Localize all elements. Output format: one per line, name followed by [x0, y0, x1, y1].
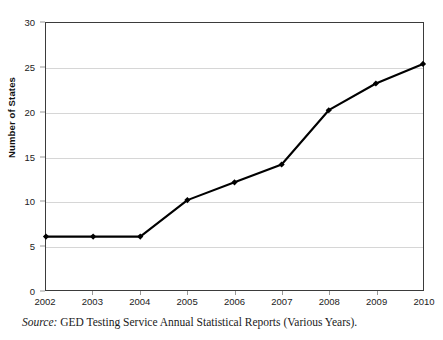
- source-text: GED Testing Service Annual Statistical R…: [57, 316, 357, 328]
- data-series: [46, 23, 423, 290]
- x-tick-label: 2005: [177, 296, 198, 307]
- y-axis: 051015202530: [0, 22, 45, 291]
- x-axis: 200220032004200520062007200820092010: [45, 291, 424, 313]
- chart-title: [18, 0, 438, 4]
- x-tick-mark: [235, 291, 236, 295]
- y-tick-label: 0: [30, 286, 35, 297]
- x-tick-mark: [329, 291, 330, 295]
- y-tick-label: 20: [24, 106, 35, 117]
- x-tick-mark: [187, 291, 188, 295]
- x-tick-mark: [140, 291, 141, 295]
- x-tick-label: 2007: [271, 296, 292, 307]
- data-point-marker: [420, 61, 426, 67]
- x-tick-label: 2003: [82, 296, 103, 307]
- plot-area: [45, 22, 424, 291]
- y-tick-label: 10: [24, 196, 35, 207]
- y-tick-label: 30: [24, 17, 35, 28]
- x-tick-label: 2002: [34, 296, 55, 307]
- chart-figure: Number of States 051015202530 2002200320…: [0, 0, 443, 340]
- x-tick-label: 2010: [413, 296, 434, 307]
- data-point-marker: [231, 179, 237, 185]
- x-tick-mark: [92, 291, 93, 295]
- x-tick-label: 2008: [319, 296, 340, 307]
- x-tick-label: 2009: [366, 296, 387, 307]
- y-tick-label: 15: [24, 151, 35, 162]
- x-tick-mark: [282, 291, 283, 295]
- source-note: Source: GED Testing Service Annual Stati…: [22, 316, 357, 328]
- y-tick-label: 5: [30, 241, 35, 252]
- x-tick-label: 2004: [129, 296, 150, 307]
- data-point-marker: [90, 234, 96, 240]
- source-label: Source:: [22, 316, 57, 328]
- y-tick-label: 25: [24, 61, 35, 72]
- x-tick-label: 2006: [224, 296, 245, 307]
- series-line: [46, 64, 423, 237]
- x-tick-mark: [377, 291, 378, 295]
